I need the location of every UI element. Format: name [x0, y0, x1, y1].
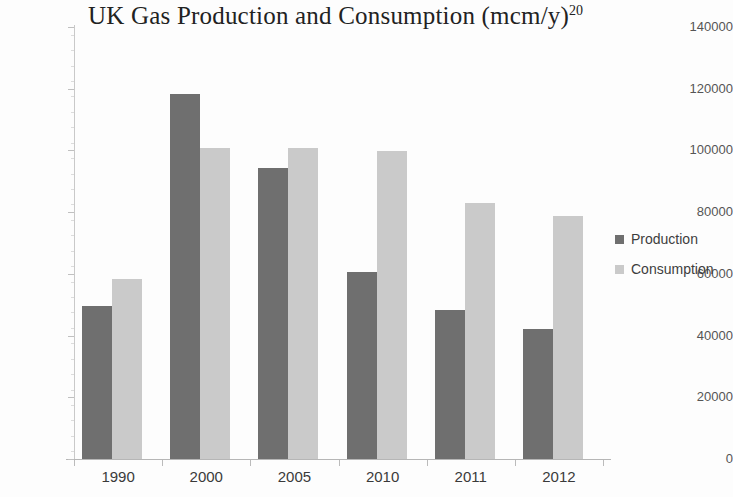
bar-consumption-2012 — [553, 216, 583, 459]
x-axis-tick-label: 2010 — [338, 468, 428, 485]
y-axis-tick-label: 0 — [667, 451, 733, 466]
chart-title: UK Gas Production and Consumption (mcm/y… — [88, 2, 708, 30]
y-axis-tick-label: 80000 — [667, 204, 733, 219]
x-axis-tick-mark — [515, 460, 516, 466]
bar-production-2000 — [170, 94, 200, 459]
y-axis-tick-label: 120000 — [667, 81, 733, 96]
bar-production-2011 — [435, 310, 465, 459]
bar-production-2012 — [523, 329, 553, 459]
legend-label-production: Production — [631, 231, 698, 247]
x-axis-tick-mark — [603, 460, 604, 466]
x-axis-tick-label: 2005 — [249, 468, 339, 485]
chart-screenshot: UK Gas Production and Consumption (mcm/y… — [0, 0, 733, 497]
bar-consumption-2000 — [200, 148, 230, 459]
y-axis-tick-label: 40000 — [667, 328, 733, 343]
bar-consumption-2010 — [377, 151, 407, 459]
x-axis-tick-label: 2012 — [514, 468, 604, 485]
x-axis-tick-mark — [162, 460, 163, 466]
y-axis-tick-label: 100000 — [667, 142, 733, 157]
bar-consumption-1990 — [112, 279, 142, 460]
x-axis-tick-mark — [74, 460, 75, 466]
chart-title-text: UK Gas Production and Consumption (mcm/y… — [88, 2, 569, 29]
bars-layer — [74, 27, 603, 459]
chart-title-footnote-marker: 20 — [569, 3, 583, 18]
legend-swatch-consumption-icon — [615, 265, 624, 274]
chart-legend: Production Consumption — [615, 224, 733, 284]
bar-production-2005 — [258, 168, 288, 459]
legend-item-production[interactable]: Production — [615, 224, 733, 254]
y-axis-tick-label: 20000 — [667, 389, 733, 404]
x-axis-tick-label: 2011 — [426, 468, 516, 485]
x-axis-tick-mark — [427, 460, 428, 466]
legend-swatch-production-icon — [615, 235, 624, 244]
bar-production-2010 — [347, 272, 377, 459]
bar-consumption-2011 — [465, 203, 495, 459]
x-axis-tick-label: 1990 — [73, 468, 163, 485]
x-axis-tick-mark — [339, 460, 340, 466]
bar-consumption-2005 — [288, 148, 318, 459]
x-axis-tick-label: 2000 — [161, 468, 251, 485]
legend-item-consumption[interactable]: Consumption — [615, 254, 733, 284]
bar-production-1990 — [82, 306, 112, 459]
x-axis-tick-mark — [250, 460, 251, 466]
y-axis-tick-label: 140000 — [667, 19, 733, 34]
legend-label-consumption: Consumption — [631, 261, 714, 277]
